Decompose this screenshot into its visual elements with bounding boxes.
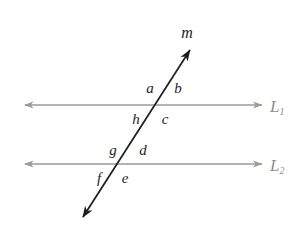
angle-label-c: c [162, 112, 169, 127]
angle-label-a: a [146, 81, 154, 96]
angle-label-g: g [109, 143, 117, 158]
line-label-l1: L1 [270, 98, 284, 115]
transversal-label-m: m [181, 25, 193, 41]
angle-label-d: d [139, 143, 147, 158]
geometry-canvas [0, 0, 301, 236]
angle-label-f: f [97, 171, 101, 186]
line-label-l2: L2 [270, 157, 284, 174]
angle-label-b: b [174, 81, 182, 96]
angle-label-h: h [132, 112, 140, 127]
angle-label-e: e [122, 171, 129, 186]
geometry-figure: L1 L2 m a b c d e f g h [0, 0, 301, 236]
line-label-l1-subscript: 1 [279, 106, 284, 117]
transversal-line-m [83, 50, 190, 217]
line-label-l2-subscript: 2 [279, 165, 284, 176]
